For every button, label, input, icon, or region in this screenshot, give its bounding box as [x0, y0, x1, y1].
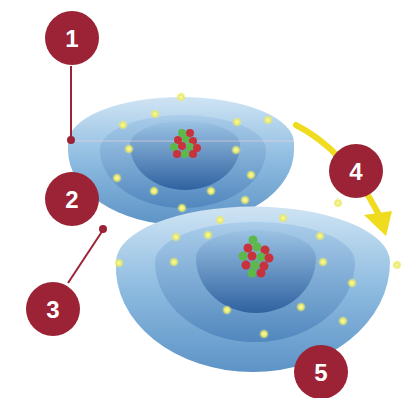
callout-2: 2 — [45, 172, 99, 226]
callout-1: 1 — [45, 11, 99, 65]
callout-3-leader — [68, 230, 103, 283]
svg-text:4: 4 — [349, 158, 363, 185]
svg-text:3: 3 — [46, 296, 59, 323]
svg-text:5: 5 — [314, 359, 327, 386]
svg-text:1: 1 — [65, 25, 78, 52]
atom-model-diagram: 1 2 3 4 5 — [0, 0, 414, 398]
callout-3-anchor — [99, 225, 107, 233]
callout-1-anchor — [67, 136, 75, 144]
callout-5: 5 — [294, 345, 348, 398]
callout-4: 4 — [329, 144, 383, 198]
upper-atom — [68, 92, 294, 225]
callout-3: 3 — [26, 282, 80, 336]
svg-text:2: 2 — [65, 186, 78, 213]
